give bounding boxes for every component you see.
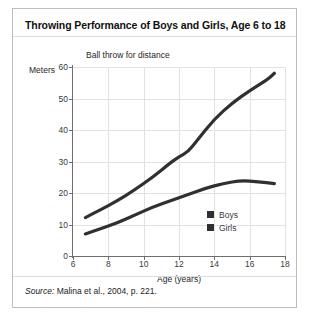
- y-tick-label: 10: [59, 220, 68, 230]
- x-tick-mark: [108, 256, 109, 260]
- y-tick-label: 50: [59, 94, 68, 104]
- chart-area: Ball throw for distance Meters 010203040…: [13, 37, 296, 276]
- x-tick-label: 10: [139, 259, 148, 269]
- chart-legend: BoysGirls: [207, 208, 238, 234]
- x-axis-line: [69, 256, 286, 257]
- x-tick-label: 14: [210, 259, 219, 269]
- x-tick-mark: [214, 256, 215, 260]
- source-label: Source:: [25, 286, 54, 296]
- x-tick-mark: [285, 256, 286, 260]
- x-tick-label: 8: [106, 259, 111, 269]
- x-tick-mark: [179, 256, 180, 260]
- y-tick-label: 40: [59, 125, 68, 135]
- y-tick-label: 60: [59, 62, 68, 72]
- figure-container: Throwing Performance of Boys and Girls, …: [12, 8, 297, 308]
- legend-item-girls[interactable]: Girls: [207, 221, 238, 234]
- x-tick-mark: [144, 256, 145, 260]
- source-citation: Malina et al., 2004, p. 221.: [54, 286, 157, 296]
- source-divider: [13, 276, 296, 277]
- gridline-vertical: [285, 67, 286, 256]
- x-tick-label: 18: [280, 259, 289, 269]
- plot-box: 0102030405060 681012141618 BoysGirls Age…: [73, 67, 285, 256]
- series-lines: [73, 67, 285, 256]
- x-tick-label: 12: [174, 259, 183, 269]
- legend-label: Girls: [219, 223, 236, 233]
- y-tick-label: 30: [59, 157, 68, 167]
- x-tick-label: 6: [71, 259, 76, 269]
- y-tick-label: 20: [59, 188, 68, 198]
- source-note: Source: Malina et al., 2004, p. 221.: [25, 286, 157, 296]
- x-tick-label: 16: [245, 259, 254, 269]
- y-tick-label: 0: [63, 251, 68, 261]
- x-tick-mark: [250, 256, 251, 260]
- series-line-girls: [85, 181, 274, 234]
- y-axis-title: Meters: [29, 65, 55, 75]
- figure-title: Throwing Performance of Boys and Girls, …: [25, 19, 290, 31]
- chart-subtitle: Ball throw for distance: [86, 50, 170, 60]
- legend-label: Boys: [219, 210, 238, 220]
- x-tick-mark: [73, 256, 74, 260]
- legend-swatch-icon: [207, 224, 214, 231]
- legend-item-boys[interactable]: Boys: [207, 208, 238, 221]
- legend-swatch-icon: [207, 211, 214, 218]
